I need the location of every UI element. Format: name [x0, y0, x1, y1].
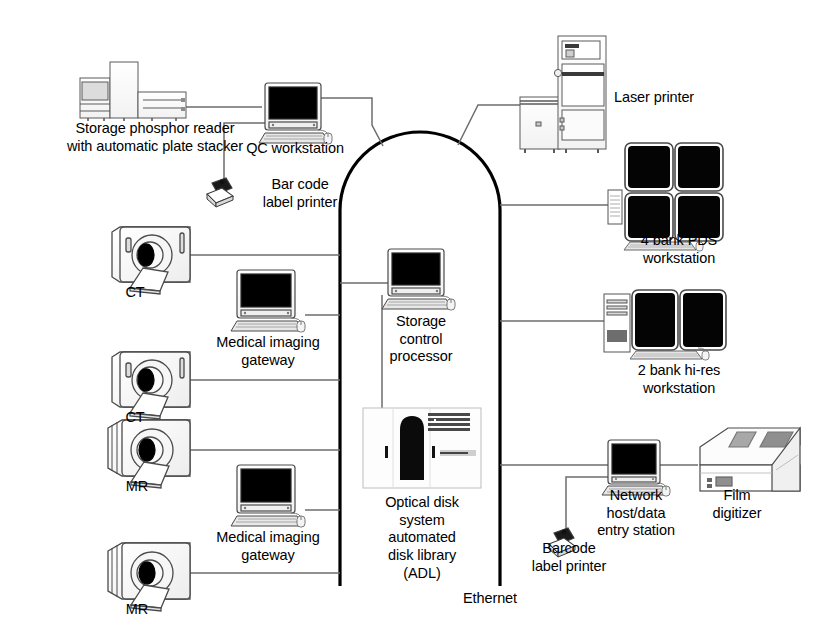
link-laser-to-backbone [458, 105, 520, 145]
desktop-computer-icon-gateway-upper [231, 270, 305, 332]
desktop-computer-icon-gateway-lower [231, 465, 305, 527]
label-pds-workstation: 4 bank PDS workstation [604, 232, 754, 267]
label-storage-control-processor: Storage control processor [371, 313, 471, 366]
film-digitizer-icon [700, 428, 800, 491]
laser-printer-icon [520, 36, 606, 153]
label-ethernet: Ethernet [425, 590, 555, 608]
label-qc-workstation: QC workstation [205, 140, 385, 158]
label-film-digitizer: Film digitizer [697, 487, 777, 522]
label-laser-printer: Laser printer [614, 89, 764, 107]
two-monitor-workstation-icon [604, 290, 726, 360]
label-ct-upper: CT [110, 284, 160, 302]
label-bar-code-label-printer: Bar code label printer [240, 176, 360, 211]
label-ct-lower: CT [110, 409, 160, 427]
pacs-network-diagram: Storage phosphor reader with automatic p… [0, 0, 815, 636]
label-network-host: Network host/data entry station [581, 487, 691, 540]
label-gateway-lower: Medical imaging gateway [203, 529, 333, 564]
label-mr-lower: MR [112, 601, 162, 619]
label-printer-icon-top [207, 178, 233, 207]
label-gateway-upper: Medical imaging gateway [203, 334, 333, 369]
label-hires-workstation: 2 bank hi-res workstation [604, 362, 754, 397]
optical-disk-library-icon [363, 408, 481, 488]
label-mr-upper: MR [112, 478, 162, 496]
label-optical-disk-library: Optical disk system automated disk libra… [361, 494, 483, 582]
label-barcode-label-printer: Barcode label printer [514, 540, 624, 575]
desktop-computer-icon-scp [382, 249, 455, 310]
storage-phosphor-reader-icon [80, 62, 186, 121]
